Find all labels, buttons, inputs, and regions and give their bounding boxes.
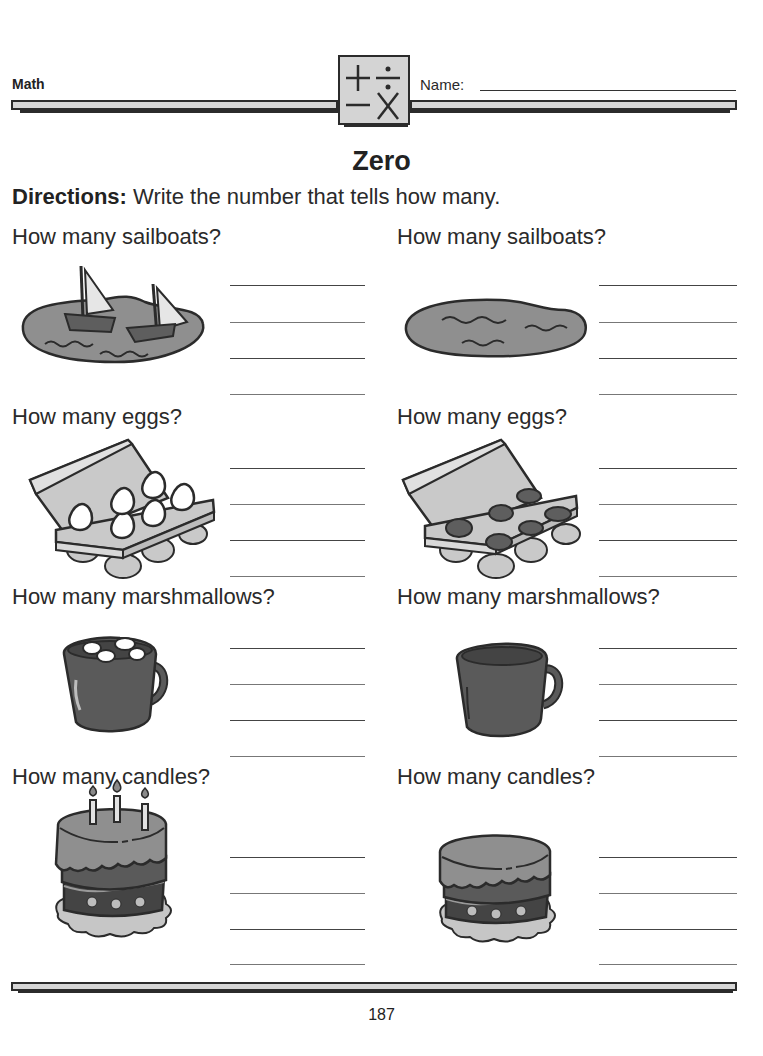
answer-baseline[interactable] [230, 929, 365, 930]
guide-line [599, 756, 737, 757]
page-number: 187 [0, 1006, 763, 1024]
name-input-line[interactable] [480, 74, 736, 91]
answer-baseline[interactable] [230, 358, 365, 359]
empty-mug-icon [455, 643, 575, 743]
question-candles-right: How many candles? [397, 764, 595, 790]
guide-line [230, 504, 365, 505]
header-bar-right-shadow [410, 108, 730, 113]
answer-line[interactable] [599, 648, 737, 649]
guide-line [599, 576, 737, 577]
guide-line [599, 893, 737, 894]
answer-line[interactable] [230, 285, 365, 286]
question-candles-left: How many candles? [12, 764, 210, 790]
directions: Directions: Write the number that tells … [12, 184, 500, 210]
answer-line[interactable] [230, 468, 365, 469]
guide-line [599, 394, 737, 395]
answer-baseline[interactable] [599, 540, 737, 541]
math-symbols-logo [338, 55, 410, 125]
directions-text: Write the number that tells how many. [127, 184, 500, 209]
question-sailboats-right: How many sailboats? [397, 224, 606, 250]
subject-label: Math [12, 76, 45, 92]
answer-baseline[interactable] [599, 358, 737, 359]
answer-baseline[interactable] [599, 720, 737, 721]
cake-with-three-candles-icon [52, 806, 182, 946]
answer-line[interactable] [599, 857, 737, 858]
empty-lake-icon [400, 298, 590, 368]
footer-bar-shadow [18, 989, 733, 993]
empty-egg-carton-icon [401, 438, 601, 578]
answer-line[interactable] [599, 285, 737, 286]
name-label: Name: [420, 76, 464, 93]
guide-line [230, 964, 365, 965]
answer-line[interactable] [599, 468, 737, 469]
guide-line [230, 576, 365, 577]
mug-with-four-marshmallows-icon [60, 636, 180, 736]
guide-line [599, 322, 737, 323]
answer-baseline[interactable] [230, 540, 365, 541]
egg-carton-with-six-eggs-icon [28, 438, 228, 578]
question-marshmallows-left: How many marshmallows? [12, 584, 275, 610]
lake-with-two-sailboats-icon [15, 262, 215, 372]
guide-line [599, 684, 737, 685]
answer-baseline[interactable] [230, 720, 365, 721]
guide-line [230, 893, 365, 894]
cake-without-candles-icon [436, 835, 566, 955]
answer-baseline[interactable] [599, 929, 737, 930]
question-sailboats-left: How many sailboats? [12, 224, 221, 250]
page-title: Zero [0, 146, 763, 177]
guide-line [230, 684, 365, 685]
answer-line[interactable] [230, 648, 365, 649]
directions-label: Directions: [12, 184, 127, 209]
guide-line [599, 964, 737, 965]
question-marshmallows-right: How many marshmallows? [397, 584, 660, 610]
guide-line [230, 756, 365, 757]
guide-line [230, 322, 365, 323]
guide-line [230, 394, 365, 395]
question-eggs-right: How many eggs? [397, 404, 567, 430]
question-eggs-left: How many eggs? [12, 404, 182, 430]
math-operations-icon [340, 57, 408, 123]
answer-line[interactable] [230, 857, 365, 858]
guide-line [599, 504, 737, 505]
header-bar-left-shadow [20, 108, 338, 113]
